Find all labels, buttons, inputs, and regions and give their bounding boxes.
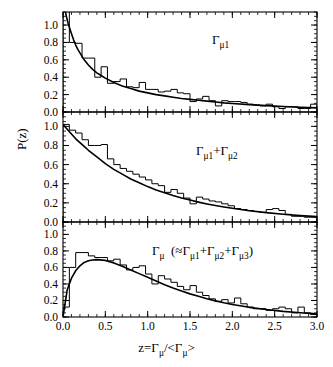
y-tick-label: 1.0 <box>44 19 59 31</box>
plot-svg: 0.00.20.40.60.81.00.00.20.40.60.81.00.00… <box>0 0 333 367</box>
y-tick-label: 0.2 <box>44 197 59 209</box>
x-tick-label: 2.5 <box>267 320 282 332</box>
y-tick-label: 0.8 <box>44 139 59 151</box>
y-tick-label: 0.4 <box>44 178 59 190</box>
y-tick-label: 0.0 <box>44 106 59 118</box>
panel-middle-label: Γμ1+Γμ2 <box>196 143 238 161</box>
y-tick-label: 1.0 <box>44 120 59 132</box>
histogram-steps <box>63 124 317 222</box>
y-tick-label: 0.0 <box>44 216 59 228</box>
y-tick-label: 0.6 <box>44 261 59 273</box>
y-axis-label: P(z) <box>14 128 30 150</box>
panel-bottom-label: Γμ (≈Γμ1+Γμ2+Γμ3) <box>152 243 253 261</box>
panel-frame <box>63 112 317 222</box>
y-tick-label: 0.4 <box>44 278 59 290</box>
x-tick-label: 1.0 <box>140 320 155 332</box>
y-tick-label: 1.0 <box>44 228 59 240</box>
panel-0: 0.00.20.40.60.81.0 <box>44 0 317 118</box>
histogram-steps <box>63 253 317 317</box>
x-tick-label: 0.5 <box>98 320 113 332</box>
panel-2: 0.00.20.40.60.81.00.00.51.01.52.02.53.0 <box>44 222 325 332</box>
y-tick-label: 0.8 <box>44 36 59 48</box>
x-tick-label: 1.5 <box>183 320 198 332</box>
panel-top-label: Γμ1 <box>212 32 229 50</box>
y-tick-label: 0.6 <box>44 54 59 66</box>
x-tick-label: 0.0 <box>56 320 71 332</box>
figure-root: 0.00.20.40.60.81.00.00.20.40.60.81.00.00… <box>0 0 333 367</box>
panel-frame <box>63 222 317 317</box>
panel-1: 0.00.20.40.60.81.0 <box>44 112 317 228</box>
y-tick-label: 0.2 <box>44 89 59 101</box>
x-tick-label: 3.0 <box>310 320 325 332</box>
x-tick-label: 2.0 <box>225 320 240 332</box>
y-tick-label: 0.4 <box>44 71 59 83</box>
histogram-steps <box>63 10 317 112</box>
y-tick-label: 0.2 <box>44 294 59 306</box>
x-axis-label: z=Γμ/<Γμ> <box>0 340 333 358</box>
y-tick-label: 0.8 <box>44 245 59 257</box>
y-tick-label: 0.6 <box>44 159 59 171</box>
